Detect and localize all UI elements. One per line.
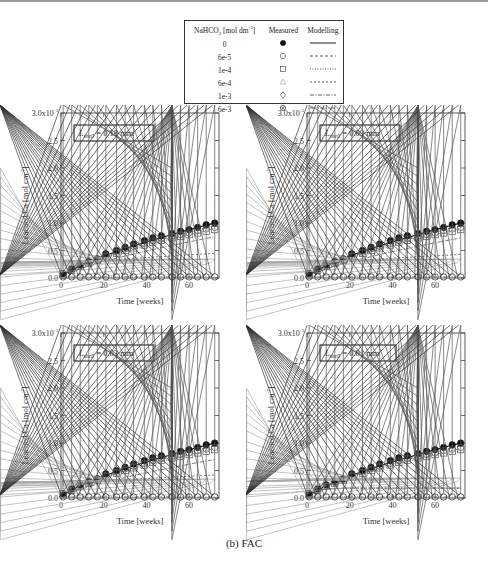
legend-row: 0 — [185, 38, 343, 51]
x-axis-label: Time [weeks] — [363, 296, 410, 306]
legend-header-conc: NaHCO3 [mol dm-3] — [185, 21, 264, 38]
legend-marker-icon — [264, 77, 302, 90]
chart-panel-4: 0.00.51.01.52.02.53.0x10-30204060Time [w… — [246, 325, 488, 549]
legend-conc: 0 — [185, 38, 264, 51]
legend-conc: 6e-4 — [185, 77, 264, 90]
svg-text:60: 60 — [431, 501, 439, 510]
legend-line-icon — [303, 38, 343, 51]
legend-marker-icon — [264, 51, 302, 64]
svg-text:0: 0 — [59, 281, 63, 290]
legend-marker-icon — [264, 38, 302, 51]
legend-row: 1e-4 — [185, 64, 343, 77]
svg-text:60: 60 — [185, 501, 193, 510]
svg-text:3.0x10-3: 3.0x10-3 — [32, 328, 59, 338]
svg-text:3.0x10-3: 3.0x10-3 — [278, 328, 305, 338]
legend-conc: 1e-4 — [185, 64, 264, 77]
legend-line-icon — [303, 77, 343, 90]
svg-text:3.0x10-3: 3.0x10-3 — [278, 108, 305, 118]
svg-text:60: 60 — [431, 281, 439, 290]
legend-row: 1e-3 — [185, 90, 343, 103]
svg-text:0: 0 — [305, 501, 309, 510]
legend-header-modelling: Modelling — [303, 21, 343, 38]
legend: NaHCO3 [mol dm-3] Measured Modelling 0 6… — [184, 20, 344, 104]
legend-header-measured: Measured — [264, 21, 302, 38]
svg-text:3.0x10-3: 3.0x10-3 — [32, 108, 59, 118]
legend-row: 6e-5 — [185, 51, 343, 64]
legend-line-icon — [303, 64, 343, 77]
x-axis-label: Time [weeks] — [117, 296, 164, 306]
svg-text:0: 0 — [59, 501, 63, 510]
svg-text:60: 60 — [185, 281, 193, 290]
legend-row: 6e-4 — [185, 77, 343, 90]
legend-conc: 6e-5 — [185, 51, 264, 64]
page-top-rule — [0, 0, 488, 2]
chart-panel-3: 0.00.51.01.52.02.53.0x10-30204060Time [w… — [0, 325, 246, 549]
legend-line-icon — [303, 90, 343, 103]
subfigure-label: (b) FAC — [0, 537, 488, 549]
svg-text:40: 40 — [142, 281, 150, 290]
chart-panel-2: 0.00.51.01.52.02.53.0x10-30204060Time [w… — [246, 105, 488, 329]
svg-text:40: 40 — [142, 501, 150, 510]
legend-marker-icon — [264, 64, 302, 77]
legend-marker-icon — [264, 90, 302, 103]
legend-conc: 1e-3 — [185, 90, 264, 103]
svg-text:40: 40 — [388, 501, 396, 510]
svg-text:40: 40 — [388, 281, 396, 290]
x-axis-label: Time [weeks] — [117, 516, 164, 526]
legend-line-icon — [303, 51, 343, 64]
x-axis-label: Time [weeks] — [363, 516, 410, 526]
svg-text:0: 0 — [305, 281, 309, 290]
chart-panel-1: 0.00.51.01.52.02.53.0x10-30204060Time [w… — [0, 105, 246, 329]
